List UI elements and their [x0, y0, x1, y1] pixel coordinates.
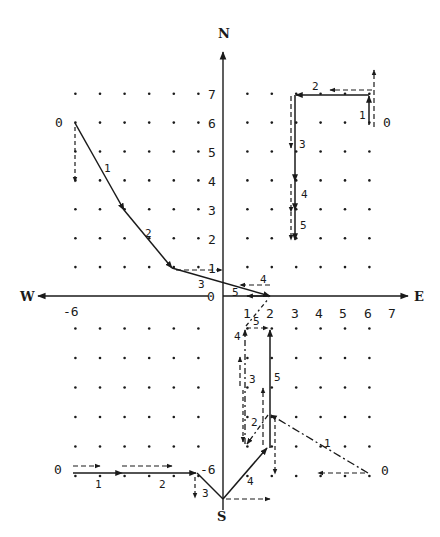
grid-dot [99, 150, 102, 153]
grid-dot [99, 92, 102, 95]
grid-dot [344, 475, 347, 478]
grid-dot [344, 121, 347, 124]
grid-dot [148, 386, 151, 389]
grid-dot [246, 179, 249, 182]
se-seg-label-1: 1 [324, 437, 331, 450]
grid-dot [271, 475, 274, 478]
grid-dot [246, 445, 249, 448]
y-tick: 3 [208, 203, 216, 218]
grid-dot [271, 266, 274, 269]
y-tick: 5 [208, 145, 216, 160]
grid-dot [319, 150, 322, 153]
grid-dot [123, 475, 126, 478]
grid-dot [271, 121, 274, 124]
west-label: W [19, 289, 35, 304]
sw-start-label: 0 [54, 462, 62, 477]
grid-dot [246, 121, 249, 124]
grid-dot [197, 266, 200, 269]
y-tick: 4 [208, 174, 216, 189]
sw-seg-label-3: 3 [202, 487, 209, 500]
grid-dot [271, 327, 274, 330]
grid-dot [173, 121, 176, 124]
ne-path: 0 1 2 3 4 5 [291, 70, 391, 240]
nw-seg-label-5: 5 [232, 286, 239, 299]
x-tick: 1 [243, 306, 251, 321]
nw-seg-1 [75, 123, 124, 210]
grid-dot [74, 266, 77, 269]
s-seg-label-5: 5 [274, 371, 281, 384]
grid-dot [123, 92, 126, 95]
grid-dot [344, 208, 347, 211]
grid-dot [368, 445, 371, 448]
grid-dot [173, 416, 176, 419]
west-tick-label: -6 [63, 304, 79, 319]
grid-dot [123, 150, 126, 153]
grid-dot [368, 150, 371, 153]
grid-dot [368, 475, 371, 478]
grid-dot [246, 208, 249, 211]
grid-dot [271, 445, 274, 448]
grid-dot [319, 208, 322, 211]
grid-dot [123, 179, 126, 182]
grid-dot [319, 416, 322, 419]
grid-dot [148, 92, 151, 95]
grid-dot [319, 386, 322, 389]
grid-dot [246, 386, 249, 389]
grid-dot [99, 237, 102, 240]
se-seg-label-3: 3 [249, 373, 256, 386]
grid-dot [271, 179, 274, 182]
ne-start-label: 0 [383, 115, 391, 130]
grid-dot [74, 208, 77, 211]
grid-dot [123, 237, 126, 240]
grid-dot [344, 327, 347, 330]
grid-dot [344, 445, 347, 448]
grid-dot [74, 237, 77, 240]
grid-dot [295, 327, 298, 330]
sw-path: 0 1 2 3 -6 [54, 462, 223, 500]
grid-dot [344, 357, 347, 360]
grid-dot [99, 121, 102, 124]
s-path: 4 5 [223, 330, 281, 499]
nw-seg-label-2: 2 [145, 227, 152, 240]
nw-seg-label-1: 1 [104, 162, 111, 175]
grid-dot [123, 445, 126, 448]
grid-dot [99, 416, 102, 419]
grid-dot [295, 445, 298, 448]
grid-dot [344, 150, 347, 153]
grid-dot [368, 266, 371, 269]
se-seg-1 [271, 415, 368, 473]
y-tick: 7 [208, 87, 216, 102]
south-label: S [217, 509, 226, 524]
sw-seg-label-1: 1 [95, 478, 102, 491]
grid-dot [295, 386, 298, 389]
grid-dot [319, 327, 322, 330]
grid-dot [99, 327, 102, 330]
grid-dot [148, 179, 151, 182]
grid-dot [295, 357, 298, 360]
grid-dot [319, 237, 322, 240]
grid-dot [148, 445, 151, 448]
sw-seg-label-2: 2 [159, 478, 166, 491]
grid-dot [246, 266, 249, 269]
s-seg-4 [223, 448, 267, 499]
grid-dot [148, 266, 151, 269]
grid-dot [295, 475, 298, 478]
grid-dot [99, 357, 102, 360]
vector-path-diagram: N S E W 1 2 3 4 5 6 7 1 2 3 4 5 6 7 -6 0… [0, 0, 440, 537]
grid-dot [148, 416, 151, 419]
grid-dot [74, 327, 77, 330]
grid-dot [197, 150, 200, 153]
grid-dot [173, 445, 176, 448]
y-tick: 2 [208, 232, 216, 247]
grid-dot [99, 208, 102, 211]
grid-dot [368, 208, 371, 211]
x-tick: 7 [388, 306, 396, 321]
grid-dot [197, 179, 200, 182]
grid-dot [271, 357, 274, 360]
grid-dot [197, 208, 200, 211]
grid-dot [123, 416, 126, 419]
east-label: E [414, 289, 424, 304]
grid-dot [99, 266, 102, 269]
grid-dot [344, 237, 347, 240]
grid-dot [173, 179, 176, 182]
